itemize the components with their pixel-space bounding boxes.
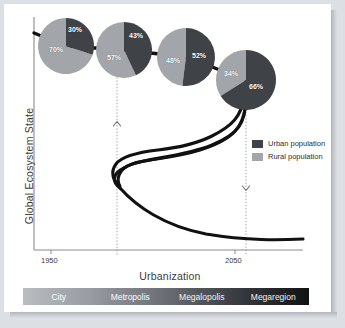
pie-label-urban-megaregion: 66%	[249, 83, 263, 90]
x-tick-label-2050: 2050	[225, 256, 242, 265]
urbanization-scale-bar: City Metropolis Megalopolis Megaregion	[23, 288, 309, 305]
pie-chart-metropolis	[96, 22, 152, 78]
scale-segment-metropolis: Metropolis	[95, 292, 167, 302]
pie-label-urban-city: 30%	[68, 26, 82, 33]
ecosystem-curve-upper-branch	[124, 96, 246, 168]
ecosystem-state-curve	[113, 96, 246, 186]
pie-label-rural-megalopolis: 48%	[166, 57, 180, 64]
legend-item-urban: Urban population	[252, 139, 342, 148]
pie-chart-megaregion	[216, 50, 276, 110]
y-axis-title: Global Ecosystem State	[23, 91, 35, 241]
ecosystem-curve-lower-branch	[120, 188, 303, 240]
scale-segment-megalopolis: Megalopolis	[166, 292, 238, 302]
pie-label-urban-metropolis: 43%	[129, 32, 143, 39]
pie-chart-city	[38, 18, 94, 74]
scale-segment-megaregion: Megaregion	[238, 292, 310, 302]
pie-label-rural-city: 70%	[49, 46, 63, 53]
x-axis-title: Urbanization	[60, 270, 280, 282]
pie-label-urban-megalopolis: 52%	[192, 52, 206, 59]
x-tick-label-1950: 1950	[41, 256, 58, 265]
legend-label-urban: Urban population	[268, 139, 325, 148]
legend: Urban population Rural population	[252, 139, 342, 165]
pie-label-rural-megaregion: 34%	[224, 70, 238, 77]
legend-swatch-urban	[252, 140, 263, 148]
figure-root: 30%70%43%57%52%48%66%34% Global Ecosyste…	[0, 0, 345, 328]
legend-label-rural: Rural population	[268, 152, 323, 161]
legend-item-rural: Rural population	[252, 152, 342, 161]
legend-swatch-rural	[252, 153, 263, 161]
pie-label-rural-metropolis: 57%	[107, 54, 121, 61]
scale-segment-city: City	[23, 292, 95, 302]
